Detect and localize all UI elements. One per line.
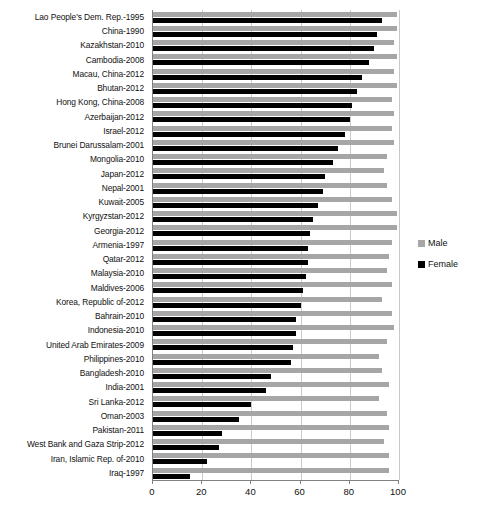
bar-group <box>153 309 399 323</box>
bar-male <box>153 339 387 344</box>
category-label: Pakistan-2011 <box>0 423 148 437</box>
bar-group <box>153 409 399 423</box>
bar-male <box>153 111 394 116</box>
bar-male <box>153 140 394 145</box>
bar-group <box>153 195 399 209</box>
bar-female <box>153 288 303 293</box>
bar-female <box>153 89 357 94</box>
bar-female <box>153 231 310 236</box>
category-label: Lao People's Dem. Rep.-1995 <box>0 10 148 24</box>
category-label: United Arab Emirates-2009 <box>0 338 148 352</box>
bar-female <box>153 474 190 479</box>
bar-group <box>153 438 399 452</box>
bar-female <box>153 260 308 265</box>
bar-group <box>153 366 399 380</box>
category-label: Kuwait-2005 <box>0 195 148 209</box>
bar-male <box>153 54 397 59</box>
bar-group <box>153 39 399 53</box>
category-label: Macau, China-2012 <box>0 67 148 81</box>
category-label: China-1990 <box>0 24 148 38</box>
category-label: India-2001 <box>0 381 148 395</box>
legend-label: Male <box>428 238 448 248</box>
bar-male <box>153 126 392 131</box>
bar-female <box>153 303 301 308</box>
bar-male <box>153 396 379 401</box>
bar-group <box>153 381 399 395</box>
category-label: Brunei Darussalam-2001 <box>0 138 148 152</box>
bar-group <box>153 352 399 366</box>
bar-male <box>153 282 392 287</box>
bar-male <box>153 311 392 316</box>
category-label: Georgia-2012 <box>0 224 148 238</box>
bar-female <box>153 160 333 165</box>
bar-female <box>153 32 377 37</box>
bar-female <box>153 203 318 208</box>
bar-group <box>153 110 399 124</box>
legend-swatch-icon <box>418 261 425 268</box>
bar-male <box>153 439 384 444</box>
bar-male <box>153 382 389 387</box>
bar-female <box>153 459 207 464</box>
category-label: Kyrgyzstan-2012 <box>0 210 148 224</box>
bar-female <box>153 431 222 436</box>
bar-female <box>153 345 293 350</box>
category-label: Cambodia-2008 <box>0 53 148 67</box>
bar-female <box>153 331 296 336</box>
x-axis-tick-label: 60 <box>294 486 305 497</box>
bar-male <box>153 354 379 359</box>
bar-group <box>153 466 399 480</box>
legend-label: Female <box>428 259 458 269</box>
bar-group <box>153 210 399 224</box>
bar-female <box>153 75 362 80</box>
bar-male <box>153 325 394 330</box>
bar-male <box>153 468 389 473</box>
legend-item: Female <box>418 259 476 269</box>
bar-male <box>153 240 392 245</box>
bar-group <box>153 138 399 152</box>
category-label: Oman-2003 <box>0 409 148 423</box>
bar-male <box>153 197 392 202</box>
bar-group <box>153 252 399 266</box>
bar-group <box>153 153 399 167</box>
bar-male <box>153 297 382 302</box>
bar-group <box>153 423 399 437</box>
bar-female <box>153 274 306 279</box>
x-axis-tick-label: 40 <box>245 486 256 497</box>
category-label: Iraq-1997 <box>0 466 148 480</box>
bar-male <box>153 26 397 31</box>
bar-group <box>153 338 399 352</box>
bar-group <box>153 224 399 238</box>
bar-female <box>153 317 296 322</box>
category-label: Azerbaijan-2012 <box>0 110 148 124</box>
x-axis-tick <box>300 480 301 484</box>
bar-female <box>153 60 369 65</box>
bar-female <box>153 117 350 122</box>
bar-male <box>153 168 384 173</box>
category-label: Armenia-1997 <box>0 238 148 252</box>
bar-male <box>153 411 387 416</box>
category-label: Malaysia-2010 <box>0 267 148 281</box>
bar-group <box>153 81 399 95</box>
bar-female <box>153 402 251 407</box>
x-axis-tick-label: 100 <box>390 486 406 497</box>
bar-male <box>153 12 397 17</box>
x-axis-tick <box>398 480 399 484</box>
bar-group <box>153 395 399 409</box>
x-axis-line <box>152 480 399 481</box>
bar-female <box>153 445 219 450</box>
category-label: West Bank and Gaza Strip-2012 <box>0 438 148 452</box>
bar-group <box>153 167 399 181</box>
x-axis-tick <box>201 480 202 484</box>
bar-female <box>153 217 313 222</box>
bar-group <box>153 281 399 295</box>
bar-male <box>153 254 389 259</box>
category-label: Sri Lanka-2012 <box>0 395 148 409</box>
category-label: Japan-2012 <box>0 167 148 181</box>
bar-rows <box>153 10 399 480</box>
category-label: Kazakhstan-2010 <box>0 39 148 53</box>
bar-male <box>153 69 394 74</box>
bar-male <box>153 225 397 230</box>
bar-male <box>153 453 389 458</box>
bar-group <box>153 10 399 24</box>
bar-male <box>153 183 387 188</box>
